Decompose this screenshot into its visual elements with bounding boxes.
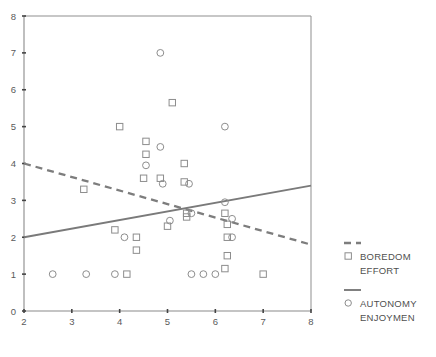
data-point-square <box>140 175 146 181</box>
data-point-circle <box>121 234 128 241</box>
data-point-circle <box>212 271 219 278</box>
legend-label-line1-1: AUTONOMY <box>360 298 417 309</box>
data-point-square <box>124 271 130 277</box>
data-point-circle <box>186 180 193 187</box>
data-point-circle <box>188 271 195 278</box>
y-tick-label: 7 <box>11 47 16 58</box>
data-point-square <box>133 247 139 253</box>
data-point-square <box>133 234 139 240</box>
data-point-circle <box>200 271 207 278</box>
data-point-square <box>181 160 187 166</box>
data-point-square <box>116 123 122 129</box>
legend-marker-square-0 <box>345 253 351 259</box>
plot-frame <box>24 16 311 311</box>
legend-label-line2-1: ENJOYMEN <box>360 312 415 323</box>
data-point-circle <box>229 234 236 241</box>
y-tick-label: 5 <box>11 121 16 132</box>
data-point-square <box>222 210 228 216</box>
data-point-square <box>260 271 266 277</box>
y-tick-label: 6 <box>11 84 16 95</box>
data-point-square <box>81 186 87 192</box>
x-tick-label: 2 <box>21 316 26 327</box>
legend-label-line1-0: BOREDOM <box>360 251 411 262</box>
data-point-square <box>224 252 230 258</box>
trend-line-boredom-effort <box>24 164 311 245</box>
legend-marker-circle-1 <box>345 300 351 306</box>
chart-canvas: 0123456782345678BOREDOMEFFORTAUTONOMYENJ… <box>0 0 436 357</box>
data-point-circle <box>157 144 164 151</box>
y-tick-label: 0 <box>11 306 16 317</box>
x-tick-label: 8 <box>308 316 313 327</box>
data-point-square <box>222 265 228 271</box>
data-point-square <box>169 99 175 105</box>
x-tick-label: 3 <box>69 316 74 327</box>
data-point-square <box>143 138 149 144</box>
x-tick-label: 6 <box>213 316 218 327</box>
y-tick-label: 2 <box>11 232 16 243</box>
y-tick-label: 3 <box>11 195 16 206</box>
data-point-circle <box>111 271 118 278</box>
y-tick-label: 4 <box>11 158 16 169</box>
scatter-chart: 0123456782345678BOREDOMEFFORTAUTONOMYENJ… <box>0 0 436 357</box>
x-tick-label: 5 <box>165 316 170 327</box>
x-tick-label: 7 <box>261 316 266 327</box>
data-point-square <box>112 227 118 233</box>
data-point-circle <box>157 49 164 56</box>
data-point-square <box>143 151 149 157</box>
y-tick-label: 8 <box>11 11 16 22</box>
data-point-square <box>224 221 230 227</box>
legend-label-line2-0: EFFORT <box>360 265 399 276</box>
y-tick-label: 1 <box>11 269 16 280</box>
data-point-circle <box>229 215 236 222</box>
data-point-circle <box>83 271 90 278</box>
data-point-circle <box>222 123 229 130</box>
x-tick-label: 4 <box>117 316 122 327</box>
data-point-circle <box>49 271 56 278</box>
data-point-circle <box>143 162 150 169</box>
